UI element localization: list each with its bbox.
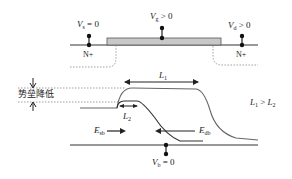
length-relation-label: L1 > L2 [250, 98, 276, 108]
barrier-lowering-label: 势垒降低 [18, 90, 54, 99]
long-channel-band [80, 88, 258, 140]
L1-label: L1 [159, 71, 167, 81]
source-region-label: N+ [83, 51, 93, 59]
Esb-label: Esb [94, 126, 105, 136]
body-contact-icon [164, 143, 168, 147]
drain-contact-icon [240, 34, 244, 38]
drain-voltage-label: Vd > 0 [228, 21, 251, 31]
gate-voltage-label: Vg > 0 [150, 12, 173, 22]
gate-electrode [107, 38, 221, 45]
source-voltage-label: Vs = 0 [77, 20, 99, 30]
source-contact-icon [87, 34, 91, 38]
body-voltage-label: Vb = 0 [152, 158, 175, 168]
Edb-label: Edb [199, 126, 211, 136]
gate-contact-icon [160, 26, 164, 30]
L2-label: L2 [123, 112, 131, 122]
drain-region-label: N+ [236, 51, 246, 59]
